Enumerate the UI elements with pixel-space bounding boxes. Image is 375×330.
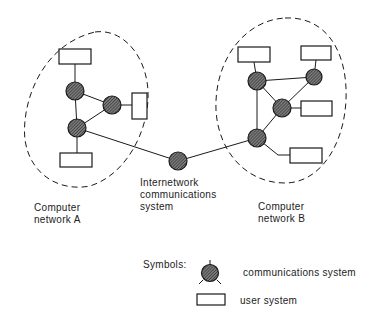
network-a-label-line2: network A [34,214,81,226]
legend-user-label: user system [240,295,297,307]
internetwork-label-line3: system [140,201,173,213]
communications-system-icon [248,129,266,147]
legend-title: Symbols: [143,259,187,271]
communications-system-icon [66,82,84,100]
communications-system-icon [248,72,266,90]
user-system-icon [60,153,92,167]
communications-system-icon [68,119,86,137]
legend-comm-symbol [199,260,221,284]
user-system-icon [59,49,91,64]
user-system-icon [238,47,270,62]
user-system-icon [290,148,322,163]
internetwork-label-line1: Internetwork [140,177,199,189]
internetwork-communications-icon [169,152,187,170]
network-b-label-line1: Computer [258,201,304,213]
communications-system-icon [306,69,322,85]
communications-system-icon [273,99,291,117]
network-b-links [178,60,316,161]
network-a-label-line1: Computer [34,202,80,214]
network-b-label-line2: network B [258,213,305,225]
internetwork-label-line2: communications [140,189,216,201]
user-system-icon [301,46,331,60]
legend-comm-label: communications system [243,267,356,279]
communications-system-icon [103,96,121,114]
user-system-icon [197,294,225,305]
user-system-icon [301,101,332,116]
internetwork-diagram [0,0,375,330]
user-system-icon [132,93,147,119]
network-a-links [75,64,178,161]
communications-system-icon [202,265,219,282]
